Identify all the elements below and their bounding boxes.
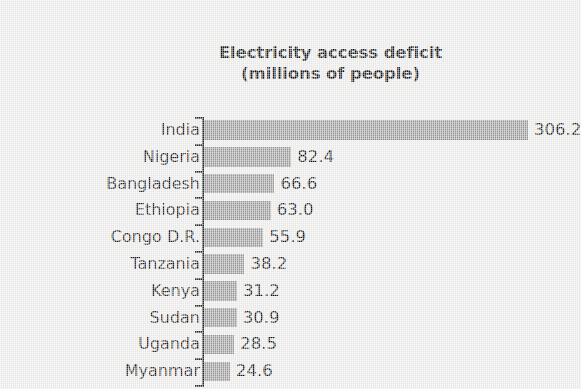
bar-fill <box>204 362 230 382</box>
bar <box>204 308 237 328</box>
bar-value-label: 82.4 <box>297 144 334 171</box>
bar-value-label: 66.6 <box>280 171 317 198</box>
bar-fill <box>204 228 263 248</box>
bar-row-list: India306.2Nigeria82.4Bangladesh66.6Ethio… <box>40 117 581 385</box>
bar-fill <box>204 201 271 221</box>
bar-value-label: 63.0 <box>277 197 314 224</box>
bar-fill <box>204 147 291 167</box>
bar-fill <box>204 281 237 301</box>
bar-fill <box>204 120 528 140</box>
bar-row: Ethiopia63.0 <box>40 197 581 224</box>
category-label: India <box>161 117 200 144</box>
bar-value-label: 30.9 <box>243 305 280 332</box>
bar-row: Kenya31.2 <box>40 278 581 305</box>
bar <box>204 254 244 274</box>
bar <box>204 281 237 301</box>
bar <box>204 174 274 194</box>
category-label: Tanzania <box>130 251 200 278</box>
bar-row: Sudan30.9 <box>40 305 581 332</box>
bar-value-label: 306.2 <box>534 117 581 144</box>
bar-fill <box>204 308 237 328</box>
category-label: Ethiopia <box>135 197 200 224</box>
chart-title-line-1: Electricity access deficit <box>40 42 581 63</box>
bar <box>204 120 528 140</box>
bar-row: Nigeria82.4 <box>40 144 581 171</box>
category-label: Myanmar <box>125 358 200 385</box>
chart-title: Electricity access deficit (millions of … <box>40 42 581 84</box>
electricity-access-deficit-bar-chart: Electricity access deficit (millions of … <box>40 16 541 373</box>
category-label: Nigeria <box>143 144 200 171</box>
bar-row: Myanmar24.6 <box>40 358 581 385</box>
bar-fill <box>204 335 234 355</box>
bar-value-label: 38.2 <box>250 251 287 278</box>
bar-value-label: 28.5 <box>240 331 277 358</box>
category-label: Kenya <box>151 278 200 305</box>
bar <box>204 201 271 221</box>
bar <box>204 362 230 382</box>
bar-value-label: 31.2 <box>243 278 280 305</box>
chart-title-line-2: (millions of people) <box>40 63 581 84</box>
bar-value-label: 24.6 <box>236 358 273 385</box>
plot-area: India306.2Nigeria82.4Bangladesh66.6Ethio… <box>40 117 581 389</box>
bar-row: Uganda28.5 <box>40 331 581 358</box>
bar-fill <box>204 254 244 274</box>
bar-row: Bangladesh66.6 <box>40 171 581 198</box>
axis-tick-mark <box>195 385 204 387</box>
category-label: Uganda <box>138 331 200 358</box>
bar-fill <box>204 174 274 194</box>
category-label: Sudan <box>150 305 200 332</box>
bar-row: Tanzania38.2 <box>40 251 581 278</box>
category-label: Congo D.R. <box>111 224 200 251</box>
category-label: Bangladesh <box>106 171 200 198</box>
bar <box>204 335 234 355</box>
bar-value-label: 55.9 <box>269 224 306 251</box>
bar <box>204 147 291 167</box>
bar-row: India306.2 <box>40 117 581 144</box>
bar <box>204 228 263 248</box>
bar-row: Congo D.R.55.9 <box>40 224 581 251</box>
